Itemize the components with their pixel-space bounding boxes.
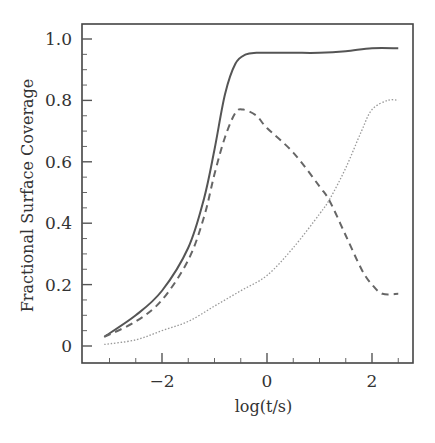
y-tick-label: 0.4 bbox=[45, 213, 72, 233]
x-tick-label: 0 bbox=[262, 371, 273, 391]
y-tick-label: 0.6 bbox=[45, 152, 72, 172]
x-tick-label: 2 bbox=[367, 371, 378, 391]
chart: 00.20.40.60.81.0 −202 log(t/s) Fractiona… bbox=[0, 0, 435, 443]
y-axis: 00.20.40.60.81.0 bbox=[45, 29, 92, 356]
x-tick-label: −2 bbox=[149, 371, 174, 391]
y-tick-label: 0 bbox=[61, 336, 72, 356]
dotted-line bbox=[104, 100, 398, 345]
series-group bbox=[104, 48, 398, 344]
x-axis: −202 bbox=[110, 353, 399, 391]
y-axis-label: Fractional Surface Coverage bbox=[18, 79, 37, 313]
x-axis-label: log(t/s) bbox=[235, 397, 293, 416]
solid-line bbox=[104, 48, 398, 337]
y-tick-label: 0.8 bbox=[45, 90, 72, 110]
plot-frame bbox=[82, 24, 413, 363]
y-tick-label: 0.2 bbox=[45, 275, 72, 295]
y-tick-label: 1.0 bbox=[45, 29, 72, 49]
dashed-line bbox=[104, 109, 398, 337]
